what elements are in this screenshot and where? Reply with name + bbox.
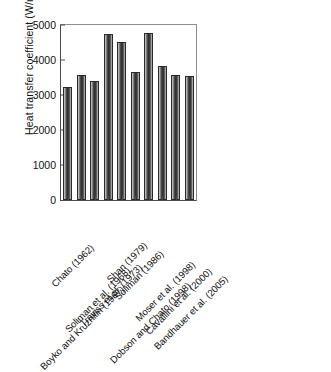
x-axis-category-label-text: Chato (1962) <box>49 242 96 289</box>
x-axis-tick-mark <box>149 196 150 200</box>
bar <box>117 42 126 200</box>
y-axis-tick-label: 2000 <box>33 124 61 136</box>
bar <box>77 75 86 200</box>
x-axis-tick-mark <box>135 196 136 200</box>
bar <box>185 76 194 200</box>
x-axis-tick-mark <box>122 196 123 200</box>
bar <box>144 33 153 200</box>
x-axis-category-label: Chato (1962) <box>88 203 135 250</box>
bar <box>131 72 140 200</box>
y-axis-tick-label: 5000 <box>33 19 61 31</box>
y-axis-tick-label: 3000 <box>33 89 61 101</box>
bar <box>158 66 167 200</box>
bar <box>63 87 72 200</box>
x-axis-tick-mark <box>81 196 82 200</box>
plot-area: 010002000300040005000 <box>60 24 197 201</box>
x-axis-tick-mark <box>68 196 69 200</box>
x-axis-tick-mark <box>108 196 109 200</box>
x-axis-tick-mark <box>189 196 190 200</box>
bar <box>104 34 113 200</box>
bar <box>90 81 99 200</box>
y-axis-tick-label: 1000 <box>33 159 61 171</box>
bar <box>171 75 180 200</box>
x-axis-tick-mark <box>95 196 96 200</box>
x-axis-tick-mark <box>162 196 163 200</box>
x-axis-tick-mark <box>176 196 177 200</box>
y-axis-tick-label: 4000 <box>33 54 61 66</box>
y-axis-tick-mark <box>61 25 65 26</box>
y-axis-tick-mark <box>61 60 65 61</box>
y-axis-tick-label: 0 <box>50 194 61 206</box>
